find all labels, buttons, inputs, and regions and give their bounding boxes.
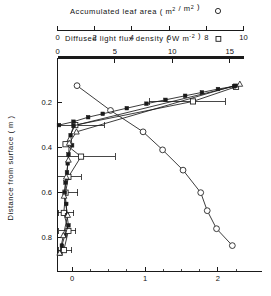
series-1 xyxy=(74,83,235,249)
chart-svg: 0246810Accumulated leaf area ( m2 / m2 )… xyxy=(0,0,271,296)
series-4 xyxy=(59,84,238,256)
marker-filled-square xyxy=(183,94,187,98)
top-axis-2-tick-label: 0 xyxy=(55,47,59,56)
marker-open-circle xyxy=(214,226,220,232)
marker-open-circle xyxy=(198,190,204,196)
data-layer xyxy=(57,81,243,256)
top-axis-1-tick-label: 0 xyxy=(55,33,59,42)
top-axis-1-tick-label: 10 xyxy=(239,33,247,42)
marker-open-square xyxy=(78,154,83,159)
marker-open-triangle xyxy=(237,81,243,86)
marker-open-circle xyxy=(74,83,80,89)
marker-filled-square xyxy=(72,124,76,128)
marker-filled-square xyxy=(69,133,73,137)
marker-filled-square xyxy=(57,123,61,127)
marker-open-square xyxy=(190,99,195,104)
top-axis-2-tick-label: 10 xyxy=(168,47,176,56)
series-line xyxy=(64,87,236,250)
marker-filled-square xyxy=(125,106,129,110)
text-layer: 0246810Accumulated leaf area ( m2 / m2 )… xyxy=(6,2,248,283)
y-axis-title: Distance from surface ( m ) xyxy=(6,115,15,220)
marker-open-circle xyxy=(160,147,166,153)
legend-open-square-light-flux xyxy=(216,37,221,42)
marker-open-triangle xyxy=(66,157,72,162)
marker-open-circle xyxy=(204,208,210,214)
series-line xyxy=(60,84,240,253)
series-2 xyxy=(58,84,239,253)
y-axis-tick-label: 0.4 xyxy=(41,143,52,152)
bottom-axis-tick-label: 1 xyxy=(143,274,147,283)
bottom-axis-tick-label: 0 xyxy=(70,274,74,283)
y-axis-tick-label: 0.6 xyxy=(41,188,52,197)
marker-open-circle xyxy=(140,129,146,135)
y-axis-tick-label: 0.2 xyxy=(41,98,52,107)
marker-filled-square xyxy=(86,115,90,119)
axis-title-accumulated-leaf-area: Accumulated leaf area ( m2 / m2 ) xyxy=(70,2,200,16)
series-line xyxy=(77,86,232,246)
top-axis-2-tick-label: 5 xyxy=(113,47,117,56)
axis-title-diffused-light-flux: Diffused light flux density ( W m-2 ) xyxy=(65,31,201,43)
marker-filled-square xyxy=(67,224,71,228)
marker-filled-square xyxy=(72,120,76,124)
y-axis-tick-label: 0.8 xyxy=(41,233,52,242)
top-axis-1-tick-label: 8 xyxy=(204,33,208,42)
marker-filled-square xyxy=(164,98,168,102)
marker-open-circle xyxy=(229,243,235,249)
bottom-axis-tick-label: 2 xyxy=(216,274,220,283)
marker-filled-square xyxy=(101,112,105,116)
legend-open-circle-leaf-area xyxy=(215,8,220,13)
figure-container: 0246810Accumulated leaf area ( m2 / m2 )… xyxy=(0,0,271,296)
top-axis-2-tick-label: 15 xyxy=(225,47,233,56)
marker-filled-square xyxy=(145,102,149,106)
marker-open-circle xyxy=(180,167,186,173)
